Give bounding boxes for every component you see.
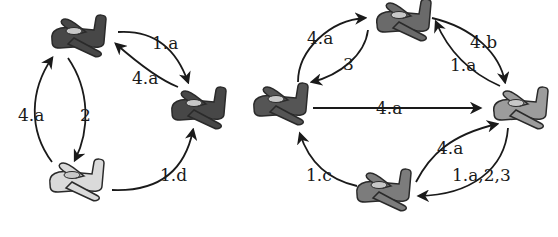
edge-label: 2 bbox=[80, 105, 91, 125]
airplane-icon bbox=[50, 159, 104, 201]
edge-label: 1.c bbox=[306, 165, 332, 185]
airplane-icon bbox=[52, 15, 106, 57]
airplane-icon bbox=[172, 87, 226, 129]
airplane-icon bbox=[494, 87, 548, 129]
airplane-icon bbox=[377, 0, 431, 41]
edge-rright-rbottom bbox=[419, 128, 508, 196]
edge-label: 3 bbox=[343, 54, 354, 74]
left-diagram: 1.a 4.a 4.a 2 1.d bbox=[18, 15, 226, 201]
edge-label: 4.b bbox=[470, 32, 497, 52]
edge-label: 1.a bbox=[152, 33, 178, 53]
airplane-icon bbox=[357, 169, 411, 211]
airplane-icon bbox=[254, 83, 308, 125]
edge-label: 4.a bbox=[18, 105, 44, 125]
edge-label: 4.a bbox=[132, 68, 158, 88]
diagram-canvas: 1.a 4.a 4.a 2 1.d bbox=[0, 0, 558, 237]
edge-label: 4.a bbox=[376, 98, 402, 118]
edge-label: 4.a bbox=[437, 138, 463, 158]
edge-label: 4.a bbox=[307, 28, 333, 48]
edge-label: 1.a,2,3 bbox=[452, 165, 511, 185]
edge-label: 1.d bbox=[160, 165, 187, 185]
right-diagram: 4.a 3 4.b 1.a 4.a 4.a 1.a,2,3 1.c bbox=[254, 0, 548, 211]
edge-label: 1.a bbox=[450, 55, 476, 75]
